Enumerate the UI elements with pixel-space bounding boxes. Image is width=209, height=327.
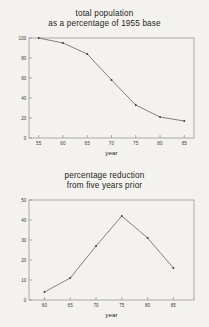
plot-area-percentage-reduction: 01020304050606570758085year [0,193,209,327]
x-axis-tick-label: 80 [157,141,163,146]
x-axis-tick-label: 60 [42,303,48,308]
data-point-marker [147,237,149,239]
percentage-reduction-figure: percentage reduction from five years pri… [0,165,209,327]
x-axis-tick-label: 85 [171,303,177,308]
x-axis-tick-label: 55 [36,141,42,146]
data-point-marker [135,104,137,106]
chart-title-line1: percentage reduction [65,171,145,180]
data-point-marker [95,245,97,247]
x-axis-tick-label: 60 [60,141,66,146]
x-axis-tick-label: 75 [133,141,139,146]
data-point-marker [62,42,64,44]
y-axis-tick-label: 60 [21,76,27,81]
y-axis-tick-label: 10 [21,278,27,283]
y-axis-tick-label: 100 [19,36,27,41]
data-point-marker [111,79,113,81]
line-plot-percentage-reduction: 01020304050606570758085year [0,193,209,327]
data-point-marker [121,215,123,217]
chart-title-line2: from five years prior [0,181,209,191]
y-axis-tick-label: 0 [24,298,27,303]
y-axis-tick-label: 40 [21,218,27,223]
chart-title-line2: as a percentage of 1955 base [0,19,209,29]
x-axis-title: year [105,149,117,156]
x-axis-tick-label: 75 [119,303,125,308]
x-axis-tick-label: 70 [93,303,99,308]
data-point-marker [159,116,161,118]
y-axis-tick-label: 30 [21,238,27,243]
data-point-marker [38,37,40,39]
y-axis-tick-label: 50 [21,198,27,203]
plot-frame [29,200,194,300]
y-axis-tick-label: 40 [21,96,27,101]
data-point-marker [183,120,185,122]
x-axis-tick-label: 85 [182,141,188,146]
data-series-line [44,216,173,292]
plot-area-total-population: 02040608010055606570758085year [0,32,209,165]
figure-page: total population as a percentage of 1955… [0,0,209,327]
data-point-marker [86,53,88,55]
chart-title-line1: total population [76,9,134,18]
data-point-marker [172,267,174,269]
y-axis-tick-label: 20 [21,116,27,121]
x-axis-tick-label: 65 [85,141,91,146]
x-axis-title: year [105,311,117,318]
data-point-marker [44,291,46,293]
chart-title-total-population: total population as a percentage of 1955… [0,9,209,29]
total-population-figure: total population as a percentage of 1955… [0,0,209,165]
x-axis-tick-label: 65 [68,303,74,308]
line-plot-total-population: 02040608010055606570758085year [0,32,209,165]
y-axis-tick-label: 20 [21,258,27,263]
plot-frame [29,38,194,138]
x-axis-tick-label: 80 [145,303,151,308]
x-axis-tick-label: 70 [109,141,115,146]
chart-title-percentage-reduction: percentage reduction from five years pri… [0,171,209,191]
data-point-marker [69,277,71,279]
y-axis-tick-label: 80 [21,56,27,61]
y-axis-tick-label: 0 [24,136,27,141]
